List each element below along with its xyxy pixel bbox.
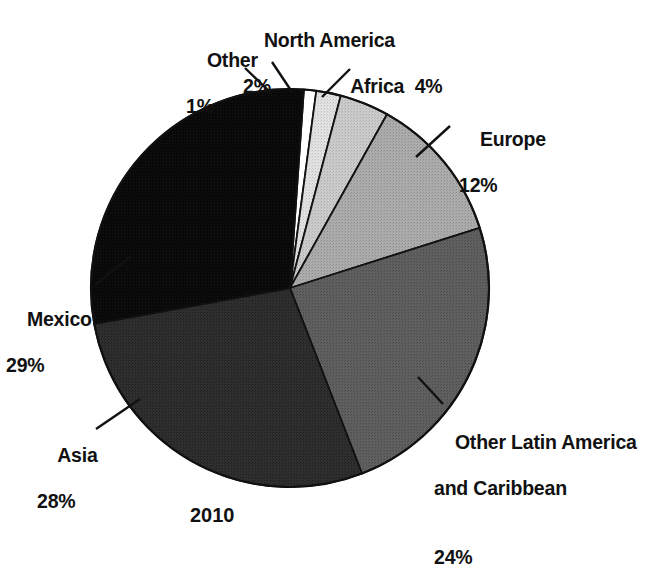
slice-label-africa: Africa 4% bbox=[330, 52, 442, 121]
slice-label-asia-value: 28% bbox=[37, 490, 98, 513]
slice-label-north-america-name: North America bbox=[264, 29, 395, 51]
pie-slices-group bbox=[91, 89, 489, 487]
slice-label-europe: Europe 12% bbox=[459, 105, 546, 243]
slice-label-africa-name: Africa 4% bbox=[350, 75, 442, 97]
slice-label-other-latin-america: Other Latin America and Caribbean 24% bbox=[434, 408, 637, 568]
slice-label-other-latin-america-line2: and Caribbean bbox=[434, 477, 637, 500]
slice-label-mexico-name: Mexico bbox=[27, 308, 92, 330]
slice-label-europe-name: Europe bbox=[480, 128, 546, 150]
slice-label-mexico-value: 29% bbox=[6, 354, 92, 377]
chart-caption-year: 2010 bbox=[190, 504, 235, 527]
slice-label-asia: Asia 28% bbox=[37, 421, 98, 559]
slice-label-asia-name: Asia bbox=[57, 444, 97, 466]
slice-label-other-latin-america-line1: Other Latin America bbox=[455, 431, 637, 453]
slice-label-europe-value: 12% bbox=[459, 174, 546, 197]
leader-line-asia bbox=[96, 399, 140, 429]
slice-label-other-latin-america-value: 24% bbox=[434, 546, 637, 568]
slice-label-mexico: Mexico 29% bbox=[6, 285, 92, 423]
